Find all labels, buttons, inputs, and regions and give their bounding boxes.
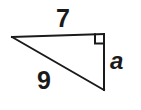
triangle-side-top bbox=[12, 34, 104, 37]
side-label-hypotenuse: 9 bbox=[0, 68, 88, 93]
right-angle-marker-icon bbox=[95, 34, 104, 43]
side-label-vertical: a bbox=[110, 49, 136, 73]
side-label-top: 7 bbox=[0, 6, 126, 31]
right-triangle-diagram: 7 9 a bbox=[0, 0, 141, 110]
